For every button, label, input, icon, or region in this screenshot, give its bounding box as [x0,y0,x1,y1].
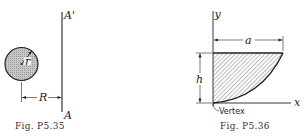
caption-p5-36: Fig. P5.36 [220,121,270,131]
label-x: x [294,96,301,109]
label-vertex: Vertex [219,107,245,116]
label-R: R [38,91,47,104]
figure-p5-35: r A' A R Fig. P5.35 [5,9,75,131]
figure-p5-36: y x a h Vertex Fig. P5.36 [196,8,301,131]
label-r: r [25,55,31,68]
figures-canvas: r A' A R Fig. P5.35 y x a h Vert [0,0,306,140]
hatched-region [213,53,283,103]
label-a-width: a [245,34,252,47]
label-a-prime: A' [63,9,75,22]
label-h: h [196,73,203,86]
label-y: y [214,8,222,21]
caption-p5-35: Fig. P5.35 [15,121,65,131]
